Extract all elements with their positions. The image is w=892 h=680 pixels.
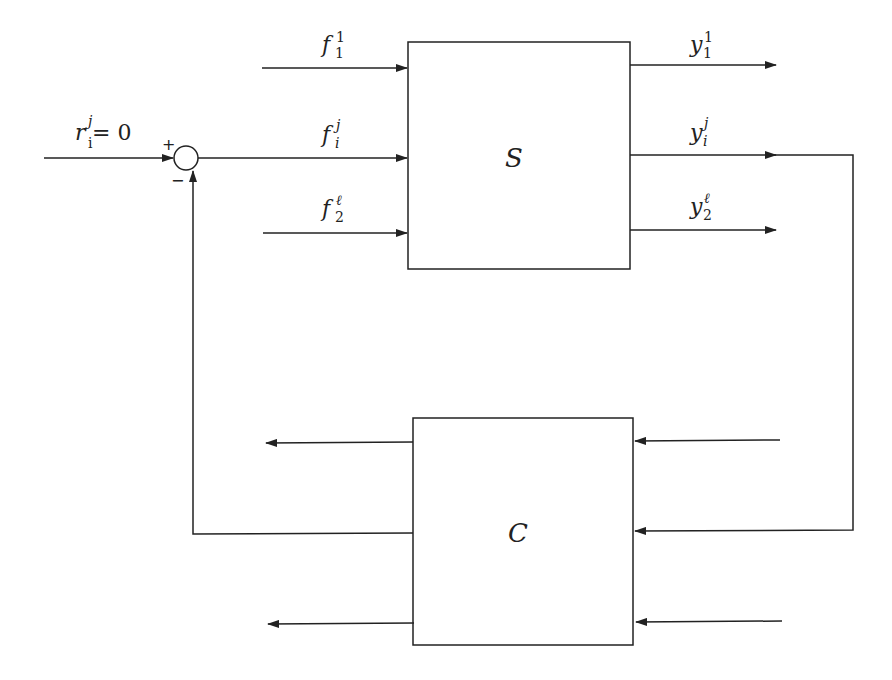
output-label-y2l: y 2 ℓ	[689, 190, 712, 223]
svg-text:r: r	[75, 120, 87, 145]
svg-text:1: 1	[703, 45, 712, 61]
controller-output-bottom	[268, 623, 414, 624]
reference-label: r i j = 0	[75, 113, 131, 151]
svg-text:j: j	[333, 117, 341, 133]
feedback-path-to-summer	[193, 171, 413, 534]
svg-text:i: i	[335, 135, 339, 151]
svg-text:y: y	[689, 32, 703, 57]
svg-text:f: f	[320, 122, 334, 147]
summing-junction	[174, 146, 198, 170]
plant-label: S	[505, 143, 523, 173]
svg-text:1: 1	[335, 45, 344, 61]
svg-text:1: 1	[704, 29, 713, 45]
svg-text:i: i	[703, 133, 707, 149]
svg-text:f: f	[320, 196, 334, 221]
output-label-y11: y 1 1	[689, 29, 713, 61]
controller-label: C	[508, 518, 528, 548]
controller-output-top	[266, 442, 413, 443]
feedback-path-to-controller	[635, 155, 853, 531]
controller-input-top	[635, 440, 780, 441]
svg-text:1: 1	[336, 29, 345, 45]
svg-text:2: 2	[335, 209, 344, 225]
input-label-f11: f 1 1	[320, 29, 345, 61]
input-label-fij: f i j	[320, 117, 341, 151]
output-label-yij: y i j	[689, 115, 709, 149]
input-label-f2l: f 2 ℓ	[320, 192, 344, 225]
feedback-block-diagram: S C + − r i j = 0 f 1 1 f i j f 2 ℓ y 1 …	[0, 0, 892, 680]
svg-text:f: f	[320, 32, 334, 57]
svg-text:y: y	[689, 194, 703, 219]
svg-text:2: 2	[703, 207, 712, 223]
svg-text:ℓ: ℓ	[336, 192, 342, 208]
svg-text:ℓ: ℓ	[704, 190, 710, 206]
svg-text:= 0: = 0	[92, 120, 131, 145]
minus-sign: −	[171, 171, 184, 190]
plus-sign: +	[162, 135, 175, 154]
svg-text:y: y	[689, 120, 703, 145]
controller-input-bottom	[636, 621, 782, 622]
